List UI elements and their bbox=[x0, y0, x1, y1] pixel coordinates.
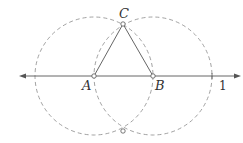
label-a: A bbox=[81, 78, 91, 93]
left-arrow-icon bbox=[19, 74, 26, 79]
label-b: B bbox=[154, 78, 165, 93]
diagram-canvas: C A B 1 bbox=[0, 0, 243, 143]
point-lower-intersection bbox=[121, 129, 125, 133]
label-c: C bbox=[119, 6, 129, 21]
side-ac bbox=[94, 24, 123, 76]
construction-svg: C A B 1 bbox=[0, 0, 243, 143]
side-bc bbox=[123, 24, 153, 76]
label-one: 1 bbox=[219, 79, 227, 93]
right-arrow-icon bbox=[234, 74, 241, 79]
point-c bbox=[121, 22, 125, 26]
point-a bbox=[92, 74, 96, 78]
